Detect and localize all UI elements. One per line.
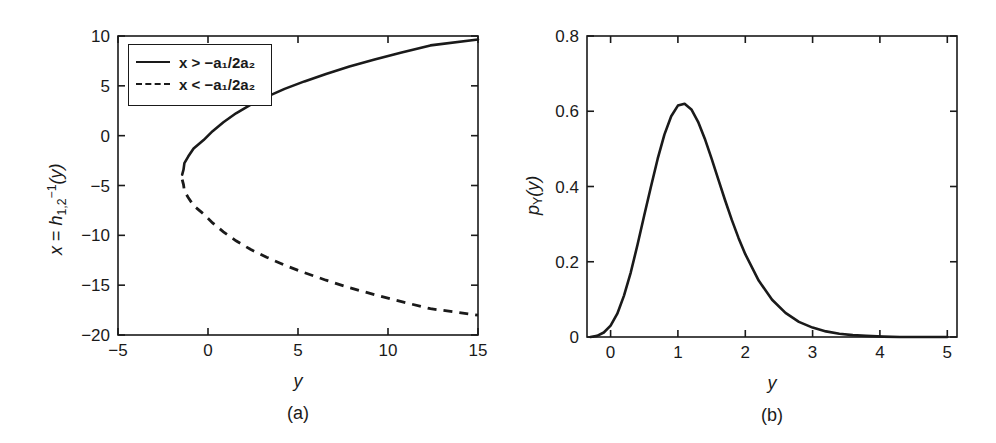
legend-label-dashed: x < −a₁/2a₂ bbox=[179, 77, 255, 92]
panel-a-xtick-label: −5 bbox=[108, 342, 127, 359]
panel-a-xtick-label: 15 bbox=[469, 342, 488, 359]
panel-b-axes-frame bbox=[587, 36, 957, 337]
ylabel-tail: (y) bbox=[46, 164, 66, 185]
panel-b-ytick-label: 0.6 bbox=[555, 103, 579, 120]
panel-b-plot bbox=[500, 0, 996, 443]
panel-a-ytick-label: 10 bbox=[91, 28, 110, 45]
panel-a-ytick-label: −15 bbox=[81, 277, 110, 294]
figure-container: 10 5 0 −5 −10 −15 −20 −5 0 5 10 15 y x =… bbox=[0, 0, 996, 443]
legend-label-solid: x > −a₁/2a₂ bbox=[179, 55, 255, 70]
panel-b-xtick-label: 4 bbox=[875, 344, 884, 361]
legend-line-solid-icon bbox=[136, 61, 170, 63]
ylabel-sub: 1,2 bbox=[55, 198, 69, 215]
panel-b-ytick-label: 0.8 bbox=[555, 28, 579, 45]
panel-b-xtick-label: 5 bbox=[943, 344, 952, 361]
legend-entry-dashed: x < −a₁/2a₂ bbox=[136, 73, 262, 95]
legend-entry-solid: x > −a₁/2a₂ bbox=[136, 51, 262, 73]
panel-b-subcaption: (b) bbox=[761, 406, 783, 424]
panel-b-xtick-label: 3 bbox=[808, 344, 817, 361]
ylabel-h: h bbox=[46, 215, 66, 225]
panel-b-yaxis-title: pY(y) bbox=[524, 176, 545, 215]
panel-b-xaxis-title: y bbox=[768, 374, 777, 392]
panel-a: 10 5 0 −5 −10 −15 −20 −5 0 5 10 15 y x =… bbox=[0, 0, 500, 443]
panel-a-ytick-label: −10 bbox=[81, 227, 110, 244]
panel-a-curve-dashed bbox=[182, 180, 478, 316]
panel-a-ytick-label: −5 bbox=[91, 177, 110, 194]
panel-b-curve-pdf bbox=[590, 104, 947, 337]
panel-a-xtick-label: 0 bbox=[203, 342, 212, 359]
panel-a-subcaption: (a) bbox=[287, 404, 309, 422]
ylabel-sup: −1 bbox=[45, 185, 59, 199]
panel-a-xaxis-title: y bbox=[294, 372, 303, 390]
panel-b-yticks bbox=[587, 36, 957, 337]
panel-b-xtick-label: 0 bbox=[606, 344, 615, 361]
panel-b-ytick-label: 0.4 bbox=[555, 178, 579, 195]
panel-a-ytick-label: −20 bbox=[81, 327, 110, 344]
ylabel-sub-Y: Y bbox=[531, 197, 545, 205]
ylabel-x: x bbox=[46, 246, 66, 255]
panel-a-xtick-label: 5 bbox=[293, 342, 302, 359]
ylabel-tail: (y) bbox=[523, 176, 543, 197]
panel-a-ytick-label: 0 bbox=[101, 127, 110, 144]
panel-b: 0.8 0.6 0.4 0.2 0 0 1 2 3 4 5 y pY(y) (b… bbox=[500, 0, 996, 443]
panel-b-xtick-label: 1 bbox=[673, 344, 682, 361]
panel-a-legend: x > −a₁/2a₂ x < −a₁/2a₂ bbox=[128, 44, 272, 106]
panel-b-xticks bbox=[611, 36, 948, 337]
legend-line-dashed-icon bbox=[136, 83, 170, 85]
panel-a-ytick-label: 5 bbox=[101, 77, 110, 94]
ylabel-p: p bbox=[523, 205, 543, 215]
panel-b-ytick-label: 0.2 bbox=[555, 253, 579, 270]
panel-b-ytick-label: 0 bbox=[570, 329, 579, 346]
ylabel-eq: = bbox=[46, 225, 66, 246]
panel-b-xtick-label: 2 bbox=[741, 344, 750, 361]
panel-a-yaxis-title: x = h1,2−1(y) bbox=[46, 164, 68, 256]
panel-a-xtick-label: 10 bbox=[379, 342, 398, 359]
